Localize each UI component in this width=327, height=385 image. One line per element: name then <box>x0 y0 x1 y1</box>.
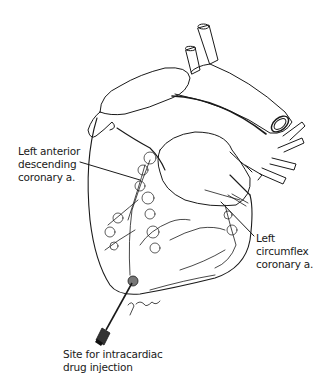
label-line: coronary a. <box>256 258 313 271</box>
right-ventricle-outflow <box>158 132 252 206</box>
label-left-anterior-descending: Left anterior descending coronary a. <box>18 145 80 184</box>
coronary-vessels <box>105 160 248 290</box>
leader-lines <box>80 162 254 236</box>
left-atrium <box>88 68 190 137</box>
label-line: circumflex <box>256 245 313 258</box>
artist-signature <box>128 301 160 315</box>
lcx-leader-line <box>221 202 254 236</box>
label-line: Left anterior <box>18 145 80 158</box>
injection-site-marker <box>128 276 138 286</box>
label-line: Site for intracardiac <box>63 348 163 361</box>
label-line: drug injection <box>63 361 163 374</box>
heart-illustration <box>0 0 327 385</box>
label-line: coronary a. <box>18 171 80 184</box>
epicardial-fat <box>105 152 237 253</box>
label-injection-site: Site for intracardiac drug injection <box>63 348 163 374</box>
label-line: Left <box>256 232 313 245</box>
lad-leader-line <box>80 162 140 180</box>
label-left-circumflex: Left circumflex coronary a. <box>256 232 313 271</box>
label-line: descending <box>18 158 80 171</box>
